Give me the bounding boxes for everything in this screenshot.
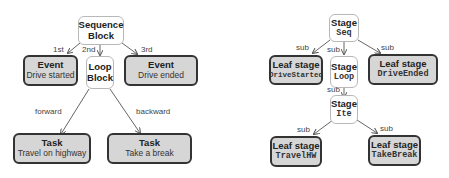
node-subtitle: TakeBreak <box>372 151 418 161</box>
edge-label-backward: backward <box>136 107 170 116</box>
edge-label-1st: 1st <box>53 45 64 54</box>
stage-seq-node: Stage Seq <box>329 14 359 42</box>
node-title: Loop <box>88 62 111 73</box>
node-subtitle: DriveEnded <box>377 70 428 80</box>
node-title: Sequence <box>79 20 124 31</box>
node-subtitle: Drive started <box>26 71 74 81</box>
leaf-drive-started-node: Leaf stage DriveStarted <box>269 55 323 85</box>
node-subtitle: Drive ended <box>138 71 184 81</box>
leaf-drive-ended-node: Leaf stage DriveEnded <box>368 54 438 85</box>
node-subtitle: DriveStarted <box>269 71 323 80</box>
node-subtitle: TravelHW <box>276 152 317 162</box>
edge-label-sub: sub <box>296 43 309 52</box>
edge-label-sub: sub <box>381 43 394 52</box>
sequence-block-node: Sequence Block <box>78 16 124 45</box>
node-subtitle: Seq <box>336 29 351 39</box>
edge-label-forward: forward <box>35 107 62 116</box>
leaf-travel-hw-node: Leaf stage TravelHW <box>270 136 322 167</box>
task-travel-node: Task Travel on highway <box>13 133 91 164</box>
leaf-take-break-node: Leaf stage TakeBreak <box>368 135 421 166</box>
node-subtitle: Take a break <box>125 149 174 159</box>
edge-label-3rd: 3rd <box>141 45 153 54</box>
edge-label-2nd: 2nd <box>82 45 95 54</box>
stage-ite-node: Stage Ite <box>330 95 358 124</box>
task-break-node: Task Take a break <box>107 133 192 164</box>
node-subtitle: Loop <box>334 73 354 83</box>
node-title: Stage <box>331 62 357 73</box>
edge-label-sub: sub <box>327 45 340 54</box>
node-subtitle: Ite <box>336 110 351 120</box>
node-subtitle: Block <box>88 31 114 42</box>
event-drive-started-node: Event Drive started <box>23 55 78 86</box>
loop-block-node: Loop Block <box>86 56 114 89</box>
node-subtitle: Travel on highway <box>18 149 87 159</box>
node-title: Leaf stage <box>273 60 320 71</box>
stage-loop-node: Stage Loop <box>330 56 358 88</box>
node-title: Stage <box>331 18 357 29</box>
edge-label-sub: sub <box>380 124 393 133</box>
node-subtitle: Block <box>87 73 113 84</box>
event-drive-ended-node: Event Drive ended <box>124 55 198 86</box>
edge-label-sub: sub <box>297 125 310 134</box>
edge-label-sub: sub <box>327 85 340 94</box>
